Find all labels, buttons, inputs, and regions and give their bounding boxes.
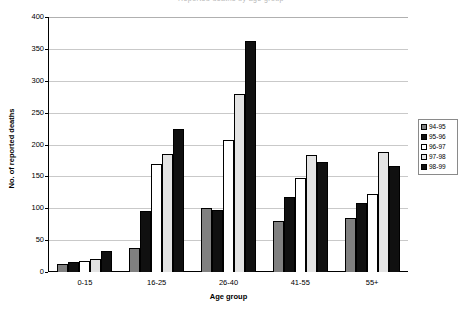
x-axis-tick-label: 16-25 [121, 278, 193, 287]
y-axis-tick-mark [45, 272, 48, 273]
legend-label: 94-95 [429, 124, 446, 131]
y-axis-tick-label: 150 [18, 173, 44, 181]
x-axis-tick-label: 26-40 [193, 278, 265, 287]
bar [140, 211, 151, 272]
bar [101, 251, 112, 272]
bar [68, 262, 79, 272]
bar [306, 155, 317, 272]
y-axis-tick-label: 400 [18, 13, 44, 21]
bar-group [336, 17, 408, 272]
legend-item[interactable]: 98-99 [421, 162, 455, 172]
y-axis-tick-label: 300 [18, 77, 44, 85]
bar [345, 218, 356, 272]
y-axis-tick-labels: 050100150200250300350400 [14, 0, 44, 315]
bar [201, 208, 212, 272]
bar [223, 140, 234, 272]
bar [273, 221, 284, 272]
x-axis-tick-label: 0-15 [49, 278, 121, 287]
legend-item[interactable]: 95-96 [421, 132, 455, 142]
legend-label: 95-96 [429, 134, 446, 141]
bar-groups [49, 17, 408, 272]
bar [151, 164, 162, 272]
legend-item[interactable]: 94-95 [421, 122, 455, 132]
x-axis-tick-label: 55+ [336, 278, 408, 287]
y-axis-tick-label: 350 [18, 45, 44, 53]
bar [90, 259, 101, 272]
legend-label: 98-99 [429, 164, 446, 171]
bar [173, 129, 184, 272]
legend-item[interactable]: 97-98 [421, 152, 455, 162]
y-axis-tick-label: 100 [18, 205, 44, 213]
legend-label: 96-97 [429, 144, 446, 151]
bar [79, 261, 90, 272]
cropped-title-fragment: Reported deaths by age group [0, 0, 462, 4]
y-axis-tick-label: 250 [18, 109, 44, 117]
bar-group [121, 17, 193, 272]
bar [295, 178, 306, 272]
y-axis-tick-label: 200 [18, 141, 44, 149]
bar [57, 264, 68, 272]
bar [389, 166, 400, 272]
x-axis-tick-label: 41-55 [264, 278, 336, 287]
bar [212, 210, 223, 272]
legend-swatch-icon [421, 154, 427, 160]
bar [356, 203, 367, 272]
chart-screenshot: Reported deaths by age group No. of repo… [0, 0, 462, 315]
bar [284, 197, 295, 272]
legend-swatch-icon [421, 124, 427, 130]
bar [129, 248, 140, 272]
bar-group [49, 17, 121, 272]
legend-swatch-icon [421, 134, 427, 140]
legend-item[interactable]: 96-97 [421, 142, 455, 152]
x-axis-title: Age group [49, 292, 408, 301]
bar [378, 152, 389, 272]
bar-group [264, 17, 336, 272]
y-axis-tick-label: 50 [18, 236, 44, 244]
bar [234, 94, 245, 272]
bar [367, 194, 378, 272]
legend-swatch-icon [421, 144, 427, 150]
bar-group [193, 17, 265, 272]
legend: 94-9595-9696-9797-9898-99 [418, 119, 458, 175]
bar [245, 41, 256, 272]
x-axis-tick-labels: 0-1516-2526-4041-5555+ [49, 278, 408, 287]
bar [162, 154, 173, 272]
bar [317, 162, 328, 272]
legend-swatch-icon [421, 164, 427, 170]
legend-label: 97-98 [429, 154, 446, 161]
y-axis-tick-label: 0 [18, 268, 44, 276]
